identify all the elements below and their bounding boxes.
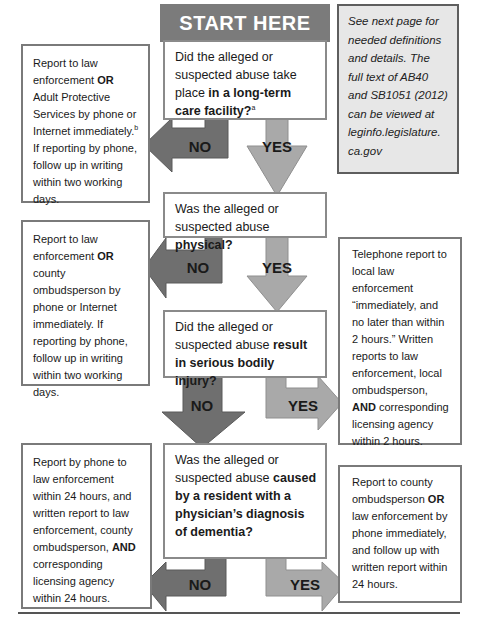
- outcome-text: If reporting by phone, follow up in writ…: [33, 142, 137, 205]
- outcome-text: Report to law enforcement: [33, 57, 98, 86]
- outcome-text: Report by phone to law enforcement withi…: [33, 456, 133, 553]
- question-emphasis: physical?: [175, 238, 233, 252]
- outcome-text: corresponding licensing agency within 24…: [33, 558, 114, 604]
- outcome-not-physical: Report to law enforcement OR county ombu…: [21, 220, 150, 386]
- yes-label-q3: YES: [282, 397, 324, 414]
- outcome-not-ltc: Report to law enforcement OR Adult Prote…: [21, 44, 150, 203]
- bottom-divider: [18, 612, 460, 614]
- no-label-q4: NO: [180, 576, 220, 593]
- question-text: Was the alleged or suspected abuse: [175, 202, 279, 234]
- outcome-text: Report to law enforcement: [33, 233, 98, 262]
- question-text: Was the alleged or suspected abuse: [175, 453, 279, 485]
- footnote-marker: b: [134, 124, 138, 131]
- question-text: Did the alleged or suspected abuse: [175, 320, 273, 352]
- yes-label-q1: YES: [256, 138, 298, 155]
- outcome-emphasis: OR: [428, 493, 445, 505]
- outcome-dementia: Report to county ombudsperson OR law enf…: [338, 465, 462, 603]
- no-label-q2: NO: [178, 259, 218, 276]
- footnote-marker: a: [251, 104, 255, 111]
- yes-label-q4: YES: [284, 576, 326, 593]
- outcome-emphasis: AND: [112, 541, 136, 553]
- question-box-4: Was the alleged or suspected abuse cause…: [163, 443, 327, 559]
- outcome-emphasis: AND: [352, 401, 376, 413]
- question-box-2: Was the alleged or suspected abuse physi…: [163, 192, 327, 238]
- outcome-serious-injury: Telephone report to local law enforcemen…: [338, 237, 462, 445]
- outcome-text: Telephone report to local law enforcemen…: [352, 248, 447, 396]
- outcome-emphasis: OR: [97, 74, 114, 86]
- question-box-1: Did the alleged or suspected abuse take …: [163, 40, 327, 120]
- question-box-3: Did the alleged or suspected abuse resul…: [163, 310, 327, 378]
- outcome-text: Adult Protective Services by phone or In…: [33, 91, 136, 137]
- outcome-text: Report to county ombudsperson: [352, 476, 433, 505]
- yes-label-q2: YES: [256, 259, 298, 276]
- outcome-not-dementia: Report by phone to law enforcement withi…: [21, 443, 152, 609]
- no-label-q1: NO: [180, 138, 220, 155]
- outcome-text: law enforcement by phone immediately, an…: [352, 510, 447, 590]
- outcome-text: county ombudsperson by phone or Internet…: [33, 267, 128, 398]
- yes-arrow-q1: [247, 118, 307, 196]
- no-label-q3: NO: [182, 397, 222, 414]
- outcome-emphasis: OR: [97, 250, 114, 262]
